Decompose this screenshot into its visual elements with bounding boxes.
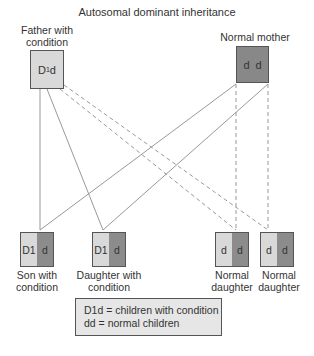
daughter-with-condition-label: Daughter with condition xyxy=(69,269,149,293)
child-label-line1: Normal xyxy=(254,269,304,281)
child-label-line1: Daughter with xyxy=(69,269,149,281)
legend-box: D1d = children with condition dd = norma… xyxy=(75,298,222,336)
normal-daughter-1-label: Normal daughter xyxy=(207,269,257,293)
father-genotype-box: D1d xyxy=(30,50,64,89)
daughter-with-condition-box: D1 d xyxy=(92,232,126,267)
child-allele-2: d xyxy=(277,233,293,266)
child-label-line2: daughter xyxy=(207,281,257,293)
father-to-daughter-line xyxy=(47,89,103,230)
mother-allele-1: d xyxy=(243,59,249,71)
child-label-line2: condition xyxy=(69,281,149,293)
child-label-line2: condition xyxy=(2,281,72,293)
normal-daughter-2-label: Normal daughter xyxy=(254,269,304,293)
normal-daughter-1-box: d d xyxy=(215,232,249,267)
legend-line-normal: dd = normal children xyxy=(84,317,221,330)
child-allele-1: d xyxy=(216,233,232,266)
child-label-line1: Normal xyxy=(207,269,257,281)
mother-allele-2: d xyxy=(256,59,262,71)
legend-line-affected: D1d = children with condition xyxy=(84,304,221,317)
child-allele-1: D1 xyxy=(21,233,37,266)
child-allele-2: d xyxy=(37,233,53,266)
father-label-line1: Father with xyxy=(10,24,84,36)
father-allele-recessive: d xyxy=(50,64,56,76)
child-allele-1: D1 xyxy=(93,233,109,266)
father-allele-dominant: D xyxy=(38,64,46,76)
normal-daughter-2-box: d d xyxy=(260,232,294,267)
child-label-line2: daughter xyxy=(254,281,304,293)
mother-label: Normal mother xyxy=(210,31,300,43)
son-with-condition-label: Son with condition xyxy=(2,269,72,293)
mother-genotype-box: d d xyxy=(236,46,269,83)
son-with-condition-box: D1 d xyxy=(20,232,54,267)
child-label-line1: Son with xyxy=(2,269,72,281)
child-allele-2: d xyxy=(109,233,125,266)
child-allele-2: d xyxy=(232,233,248,266)
child-allele-1: d xyxy=(261,233,277,266)
mother-to-son-line xyxy=(40,84,236,230)
father-label: Father with condition xyxy=(10,24,84,48)
mother-to-daughter-line xyxy=(103,84,268,230)
father-label-line2: condition xyxy=(10,36,84,48)
father-to-normal-daughter-1-line xyxy=(60,89,236,230)
